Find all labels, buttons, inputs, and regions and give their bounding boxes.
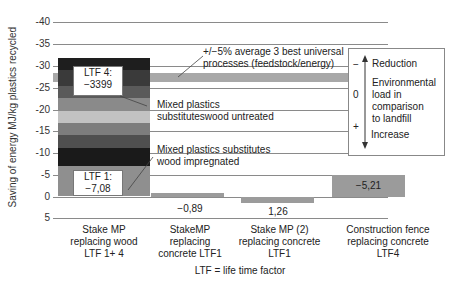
x-label-line: replacing concrete <box>232 236 327 248</box>
x-category-label: Stake MP (2) replacing concrete LTF1 <box>232 224 327 260</box>
x-label-line: Stake MP <box>54 224 154 236</box>
annotation-wood-impregnated: Mixed plastics substitutes wood impregna… <box>157 144 270 168</box>
x-label-line: LTF 1+ 4 <box>54 248 154 260</box>
annotation-line: Mixed plastics <box>157 99 274 111</box>
x-category-label: StakeMP replacing concrete LTF1 <box>150 224 230 260</box>
legend-line: Environmental <box>372 77 436 89</box>
legend-reduction: Reduction <box>372 58 417 69</box>
annotation-line: substituteswood untreated <box>157 111 274 123</box>
legend-box: − 0 + Reduction Environmental load in co… <box>348 48 445 156</box>
annotation-reference-band: +/−5% average 3 best universal processes… <box>203 46 344 70</box>
x-label-line: replacing <box>150 236 230 248</box>
x-category-label: Construction fence replacing concrete LT… <box>333 224 443 260</box>
legend-description: Environmental load in comparison to land… <box>372 77 436 125</box>
legend-increase: Increase <box>371 129 409 140</box>
legend-plus: + <box>353 121 359 132</box>
x-label-line: replacing wood <box>54 236 154 248</box>
x-axis-label: LTF = life time factor <box>180 265 300 276</box>
annotation-line: +/−5% average 3 best universal <box>203 46 344 58</box>
bar-stakemp2-concrete <box>241 197 314 203</box>
x-label-line: replacing concrete <box>333 236 443 248</box>
legend-line: comparison <box>372 101 436 113</box>
annotation-line: Mixed plastics substitutes <box>157 144 270 156</box>
x-label-line: Stake MP (2) <box>232 224 327 236</box>
x-label-line: LTF1 <box>232 248 327 260</box>
annotation-line: wood impregnated <box>157 156 270 168</box>
x-label-line: LTF4 <box>333 248 443 260</box>
legend-line: load in <box>372 89 436 101</box>
value-label: −0,89 <box>160 203 220 214</box>
legend-zero: 0 <box>353 89 359 100</box>
x-category-label: Stake MP replacing wood LTF 1+ 4 <box>54 224 154 260</box>
legend-minus: − <box>353 59 359 70</box>
x-label-line: StakeMP <box>150 224 230 236</box>
annotation-line: processes (feedstock/energy) <box>203 58 344 70</box>
value-label: 1,26 <box>248 206 308 217</box>
legend-line: to landfill <box>372 113 436 125</box>
x-label-line: Construction fence <box>333 224 443 236</box>
value-label: −5,21 <box>332 180 405 191</box>
x-label-line: concrete LTF1 <box>150 248 230 260</box>
annotation-wood-untreated: Mixed plastics substituteswood untreated <box>157 99 274 123</box>
bar-stakemp-concrete <box>151 193 224 197</box>
